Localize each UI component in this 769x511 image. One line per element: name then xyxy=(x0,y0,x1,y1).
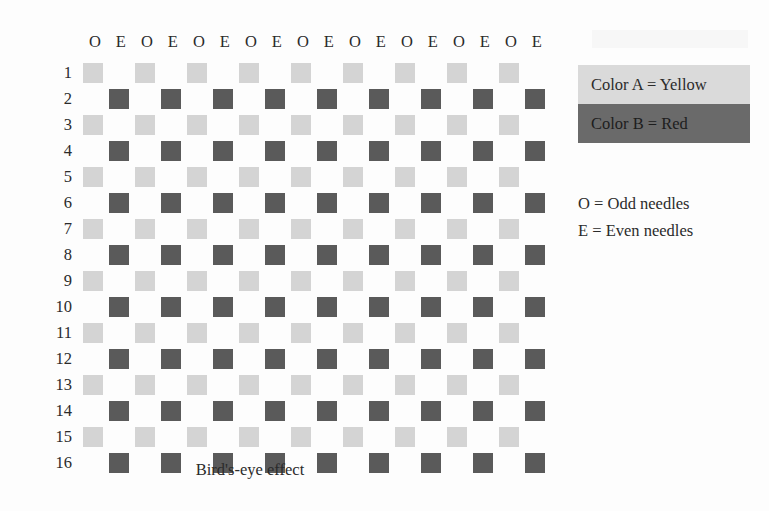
stitch-cell-empty xyxy=(108,112,134,138)
stitch-cell-empty xyxy=(290,242,316,268)
stitch-cell-a xyxy=(186,424,212,450)
stitch-cell-empty xyxy=(134,138,160,164)
stitch-cell-a xyxy=(342,320,368,346)
legend-color-b: Color B = Red xyxy=(578,104,750,143)
stitch-cell-empty xyxy=(264,164,290,190)
column-header-17: O xyxy=(498,30,524,54)
column-header-3: O xyxy=(134,30,160,54)
column-header-12: E xyxy=(368,30,394,54)
scan-artifact xyxy=(592,30,748,48)
stitch-cell-empty xyxy=(160,216,186,242)
stitch-cell-empty xyxy=(290,86,316,112)
grid-row xyxy=(82,242,550,268)
stitch-cell-empty xyxy=(264,372,290,398)
row-label-4: 4 xyxy=(34,138,76,164)
stitch-cell-a xyxy=(82,216,108,242)
stitch-cell-a xyxy=(342,164,368,190)
grid-row xyxy=(82,398,550,424)
stitch-cell-empty xyxy=(420,268,446,294)
stitch-cell-b xyxy=(524,86,550,112)
stitch-cell-a xyxy=(290,60,316,86)
stitch-cell-empty xyxy=(238,242,264,268)
stitch-cell-a xyxy=(186,112,212,138)
stitch-cell-b xyxy=(472,86,498,112)
stitch-cell-a xyxy=(134,112,160,138)
stitch-cell-b xyxy=(524,294,550,320)
stitch-cell-b xyxy=(108,190,134,216)
stitch-cell-empty xyxy=(290,294,316,320)
stitch-cell-empty xyxy=(472,372,498,398)
stitch-cell-empty xyxy=(342,190,368,216)
stitch-cell-a xyxy=(82,424,108,450)
stitch-cell-a xyxy=(82,268,108,294)
stitch-cell-empty xyxy=(82,346,108,372)
stitch-cell-b xyxy=(368,346,394,372)
stitch-cell-b xyxy=(368,138,394,164)
stitch-cell-b xyxy=(264,294,290,320)
needle-notes: O = Odd needlesE = Even needles xyxy=(578,190,763,244)
grid-row xyxy=(82,190,550,216)
stitch-cell-a xyxy=(238,424,264,450)
stitch-cell-b xyxy=(160,346,186,372)
stitch-cell-empty xyxy=(82,190,108,216)
row-label-14: 14 xyxy=(34,398,76,424)
stitch-cell-empty xyxy=(472,112,498,138)
grid-row xyxy=(82,112,550,138)
stitch-cell-a xyxy=(290,424,316,450)
stitch-cell-empty xyxy=(498,294,524,320)
stitch-cell-a xyxy=(290,372,316,398)
stitch-cell-a xyxy=(238,216,264,242)
stitch-cell-empty xyxy=(212,424,238,450)
stitch-cell-b xyxy=(368,242,394,268)
stitch-cell-a xyxy=(498,268,524,294)
row-label-5: 5 xyxy=(34,164,76,190)
stitch-cell-a xyxy=(82,320,108,346)
stitch-cell-b xyxy=(264,242,290,268)
stitch-cell-empty xyxy=(82,294,108,320)
row-label-13: 13 xyxy=(34,372,76,398)
stitch-cell-empty xyxy=(472,216,498,242)
stitch-cell-empty xyxy=(420,112,446,138)
grid-row xyxy=(82,138,550,164)
stitch-cell-empty xyxy=(82,242,108,268)
stitch-cell-a xyxy=(134,60,160,86)
stitch-cell-b xyxy=(316,346,342,372)
stitch-cell-empty xyxy=(316,60,342,86)
stitch-cell-a xyxy=(498,424,524,450)
stitch-cell-a xyxy=(82,372,108,398)
stitch-cell-empty xyxy=(446,190,472,216)
column-header-7: O xyxy=(238,30,264,54)
stitch-cell-b xyxy=(524,242,550,268)
stitch-cell-b xyxy=(524,190,550,216)
stitch-cell-empty xyxy=(134,398,160,424)
stitch-cell-empty xyxy=(108,268,134,294)
row-label-2: 2 xyxy=(34,86,76,112)
stitch-cell-a xyxy=(186,164,212,190)
chart-caption: Bird's-eye effect xyxy=(0,460,500,480)
stitch-cell-empty xyxy=(342,398,368,424)
needle-note-1: O = Odd needles xyxy=(578,190,763,217)
stitch-cell-a xyxy=(238,320,264,346)
stitch-cell-b xyxy=(472,398,498,424)
stitch-cell-b xyxy=(108,86,134,112)
stitch-cell-b xyxy=(316,190,342,216)
stitch-cell-empty xyxy=(368,372,394,398)
stitch-cell-empty xyxy=(472,268,498,294)
stitch-cell-empty xyxy=(238,86,264,112)
stitch-cell-empty xyxy=(160,320,186,346)
stitch-cell-a xyxy=(186,268,212,294)
stitch-cell-a xyxy=(394,164,420,190)
stitch-cell-empty xyxy=(316,424,342,450)
stitch-cell-empty xyxy=(82,138,108,164)
stitch-cell-b xyxy=(108,294,134,320)
column-header-18: E xyxy=(524,30,550,54)
stitch-cell-empty xyxy=(498,398,524,424)
stitch-cell-b xyxy=(212,398,238,424)
stitch-cell-b xyxy=(212,138,238,164)
stitch-cell-empty xyxy=(498,190,524,216)
legend-color-a: Color A = Yellow xyxy=(578,65,750,104)
stitch-cell-b xyxy=(420,190,446,216)
stitch-cell-empty xyxy=(264,320,290,346)
stitch-cell-empty xyxy=(186,242,212,268)
stitch-cell-a xyxy=(186,372,212,398)
